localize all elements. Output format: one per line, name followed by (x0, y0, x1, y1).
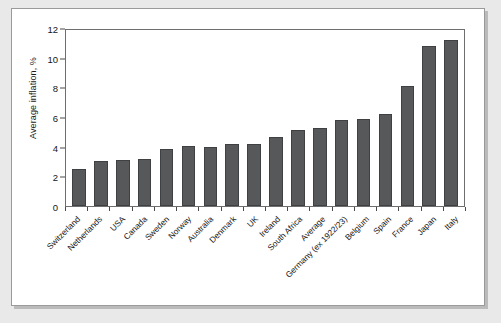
bar (138, 159, 152, 206)
y-tick-label: 10 (12, 53, 65, 64)
x-tick-mark (398, 207, 399, 211)
bar-slot (134, 30, 156, 206)
bar-slot (265, 30, 287, 206)
bar-slot (112, 30, 134, 206)
bar-series (66, 30, 464, 206)
bar-slot (287, 30, 309, 206)
bar-slot (309, 30, 331, 206)
bar-slot (396, 30, 418, 206)
bar (313, 128, 327, 206)
chart-card: Average inflation, % 024681012 Switzerla… (11, 8, 485, 306)
x-tick-mark (109, 207, 110, 211)
bar (116, 160, 130, 206)
bar-slot (243, 30, 265, 206)
x-tick-mark (243, 207, 244, 211)
bar-slot (177, 30, 199, 206)
x-tick-mark (65, 207, 66, 211)
bar (444, 40, 458, 206)
bar (422, 46, 436, 206)
x-tick-mark (154, 207, 155, 211)
bar (182, 146, 196, 206)
x-tick-mark (376, 207, 377, 211)
y-tick-label: 8 (12, 83, 65, 94)
bar (204, 147, 218, 206)
bar (247, 144, 261, 206)
x-tick-mark (198, 207, 199, 211)
bar-chart: Average inflation, % 024681012 Switzerla… (12, 9, 484, 305)
bar-slot (418, 30, 440, 206)
bar-slot (221, 30, 243, 206)
y-tick-label: 12 (12, 24, 65, 35)
bar-slot (331, 30, 353, 206)
x-tick-label: USA (107, 214, 126, 233)
bar (72, 169, 86, 206)
x-tick-label: UK (245, 214, 260, 229)
bar (401, 86, 415, 206)
x-tick-mark (176, 207, 177, 211)
bar (225, 144, 239, 206)
x-tick-mark (287, 207, 288, 211)
x-axis-labels: SwitzerlandNetherlandsUSACanadaSwedenNor… (65, 212, 465, 302)
x-tick-mark (443, 207, 444, 211)
bar (335, 120, 349, 206)
y-tick-label: 6 (12, 113, 65, 124)
bar-slot (199, 30, 221, 206)
x-tick-mark (87, 207, 88, 211)
bar (269, 137, 283, 206)
y-tick-label: 0 (12, 202, 65, 213)
x-tick-label: Japan (415, 214, 438, 237)
bar-slot (68, 30, 90, 206)
x-tick-mark (132, 207, 133, 211)
bar (160, 149, 174, 206)
plot-area (65, 29, 465, 207)
bar-slot (374, 30, 396, 206)
bar (94, 161, 108, 206)
x-tick-mark (421, 207, 422, 211)
bar (379, 114, 393, 206)
bar-slot (156, 30, 178, 206)
y-tick-label: 2 (12, 172, 65, 183)
x-tick-mark (309, 207, 310, 211)
y-tick-label: 4 (12, 142, 65, 153)
x-tick-mark (221, 207, 222, 211)
x-tick-mark (465, 207, 466, 211)
bar-slot (440, 30, 462, 206)
bar-slot (90, 30, 112, 206)
x-tick-label: Italy (442, 214, 460, 232)
x-tick-label: France (390, 214, 415, 239)
bar (291, 130, 305, 206)
x-tick-mark (265, 207, 266, 211)
bar (357, 119, 371, 206)
bar-slot (353, 30, 375, 206)
x-tick-mark (332, 207, 333, 211)
x-tick-mark (354, 207, 355, 211)
figure-container: Average inflation, % 024681012 Switzerla… (0, 0, 501, 323)
